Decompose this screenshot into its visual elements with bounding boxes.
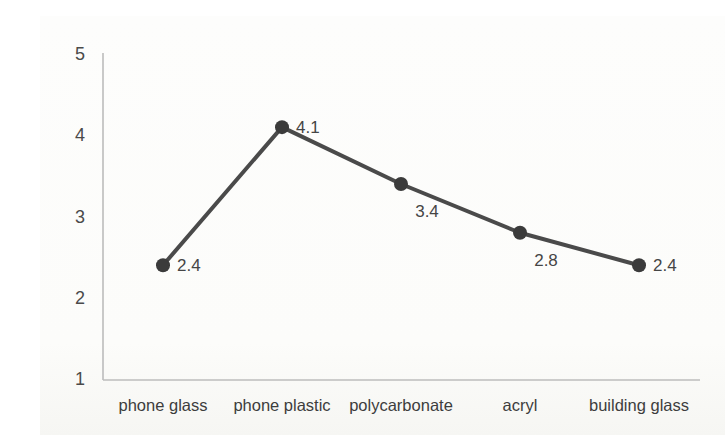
- y-tick-label: 4: [75, 125, 85, 145]
- data-point-marker: [632, 258, 646, 272]
- category-label: polycarbonate: [349, 396, 453, 414]
- y-tick-label: 5: [75, 44, 85, 64]
- data-point-label: 3.4: [415, 202, 439, 221]
- data-point-marker: [275, 120, 289, 134]
- data-point-label: 2.8: [534, 251, 558, 270]
- data-point-label: 4.1: [296, 118, 320, 137]
- series-line: [163, 127, 639, 265]
- y-tick-label: 1: [75, 369, 85, 389]
- data-point-marker: [156, 258, 170, 272]
- data-point-label: 2.4: [177, 256, 201, 275]
- line-chart: 54321phone glassphone plasticpolycarbona…: [40, 16, 725, 435]
- chart-svg: 54321phone glassphone plasticpolycarbona…: [40, 16, 725, 435]
- category-label: building glass: [589, 396, 689, 414]
- data-point-label: 2.4: [653, 256, 677, 275]
- category-label: phone glass: [119, 396, 208, 414]
- y-tick-label: 2: [75, 288, 85, 308]
- category-label: phone plastic: [233, 396, 330, 414]
- category-label: acryl: [503, 396, 538, 414]
- y-tick-label: 3: [75, 207, 85, 227]
- data-point-marker: [513, 226, 527, 240]
- data-point-marker: [394, 177, 408, 191]
